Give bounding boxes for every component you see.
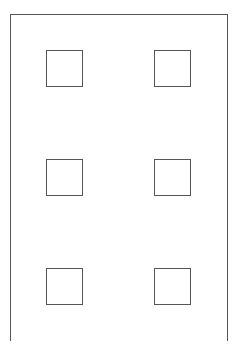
window-square (46, 159, 83, 196)
window-square (154, 50, 191, 87)
window-square (46, 50, 83, 87)
window-square (46, 268, 83, 305)
window-square (154, 159, 191, 196)
window-square (154, 268, 191, 305)
building-outline (10, 14, 228, 341)
